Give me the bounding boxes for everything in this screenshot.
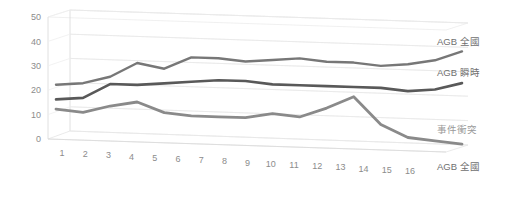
series-line-agb-quanguo — [56, 51, 462, 84]
x-axis-ticks: 12345678910111213141516 — [59, 148, 415, 176]
y-tick-20: 20 — [31, 85, 41, 95]
x-tick-14: 14 — [359, 164, 369, 174]
x-tick-9: 9 — [245, 158, 250, 168]
x-tick-11: 11 — [289, 160, 298, 170]
x-tick-1: 1 — [59, 148, 64, 158]
x-tick-12: 12 — [312, 161, 322, 171]
data-series-group — [56, 51, 462, 144]
line-chart-3d: 50 40 30 20 10 0 12345678910111213141516… — [0, 0, 515, 207]
x-tick-7: 7 — [199, 155, 204, 165]
x-tick-8: 8 — [222, 156, 227, 166]
x-tick-4: 4 — [129, 152, 134, 162]
y-tick-10: 10 — [31, 110, 41, 120]
y-tick-40: 40 — [31, 37, 41, 47]
y-tick-30: 30 — [31, 61, 41, 71]
legend-label-3[interactable]: AGB 全國 — [437, 161, 480, 172]
y-tick-0: 0 — [36, 134, 41, 144]
y-tick-50: 50 — [31, 12, 41, 22]
legend-label-0[interactable]: AGB 全國 — [437, 36, 480, 47]
legend-label-2[interactable]: 事件衝突 — [437, 124, 477, 135]
x-tick-5: 5 — [152, 153, 157, 163]
x-tick-13: 13 — [335, 162, 345, 172]
x-tick-10: 10 — [266, 159, 276, 169]
x-tick-3: 3 — [106, 150, 111, 160]
gridline-40-back — [70, 34, 468, 47]
chart-container: 50 40 30 20 10 0 12345678910111213141516… — [0, 0, 515, 207]
x-tick-2: 2 — [83, 149, 88, 159]
legend-label-1[interactable]: AGB 瞬時 — [437, 67, 480, 78]
x-tick-6: 6 — [175, 154, 180, 164]
chart-3d-frame — [48, 10, 468, 152]
x-tick-16: 16 — [405, 166, 415, 176]
back-wall-top — [48, 10, 468, 30]
series-line-agb-shunshi — [56, 80, 462, 99]
x-tick-15: 15 — [382, 165, 392, 175]
y-axis-ticks: 50 40 30 20 10 0 — [31, 12, 41, 144]
